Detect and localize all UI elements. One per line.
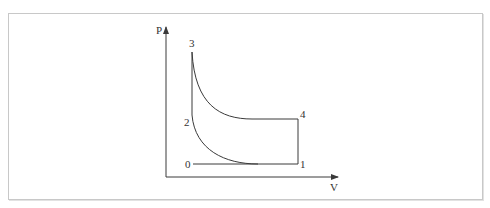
curve-4-3: [192, 52, 298, 119]
curve-2-1: [192, 115, 258, 164]
point-label-1: 1: [300, 158, 306, 170]
point-label-3: 3: [189, 37, 195, 49]
point-label-4: 4: [300, 108, 306, 120]
v-axis-label: V: [330, 181, 338, 193]
cycle-path: [192, 52, 298, 164]
point-label-0: 0: [185, 158, 191, 170]
point-label-2: 2: [184, 116, 190, 128]
p-axis-label: P: [156, 24, 162, 36]
pv-diagram: P V 3 2 0 4 1: [0, 0, 490, 208]
